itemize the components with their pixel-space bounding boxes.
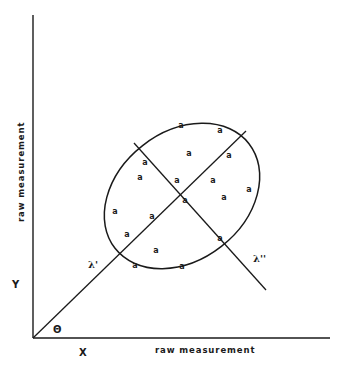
data-point: a: [217, 234, 222, 243]
data-point: a: [132, 261, 137, 270]
x-variable-label: X: [79, 347, 87, 358]
theta-angle-label: Θ: [53, 324, 62, 335]
data-point: a: [178, 121, 183, 130]
data-point: a: [226, 151, 231, 160]
data-point: a: [142, 158, 147, 167]
data-point: a: [149, 212, 154, 221]
data-point: a: [179, 262, 184, 271]
diagram-canvas: aaaaaaaaaaaaaaaaaa λ' λ'' Y X Θ raw meas…: [0, 0, 348, 374]
x-axis-title: raw measurement: [155, 345, 255, 355]
data-point: a: [210, 176, 215, 185]
data-point: a: [246, 185, 251, 194]
principal-axis-lambda-1: [33, 131, 246, 338]
data-point: a: [112, 207, 117, 216]
y-variable-label: Y: [11, 279, 20, 290]
lambda-1-label: λ': [88, 259, 98, 270]
axes-group: [33, 15, 330, 338]
data-point: a: [153, 246, 158, 255]
data-point: a: [174, 176, 179, 185]
data-point: a: [221, 193, 226, 202]
data-point: a: [217, 126, 222, 135]
data-points-group: aaaaaaaaaaaaaaaaaa: [112, 121, 251, 271]
data-point: a: [182, 196, 187, 205]
lambda-2-label: λ'': [253, 253, 266, 264]
data-point: a: [186, 149, 191, 158]
data-point: a: [124, 230, 129, 239]
data-point: a: [137, 173, 142, 182]
y-axis-title: raw measurement: [16, 122, 26, 222]
